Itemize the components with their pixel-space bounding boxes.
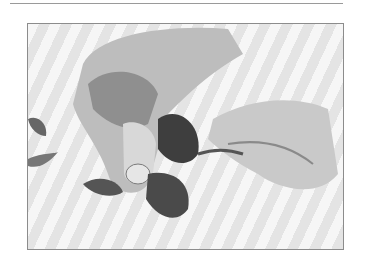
mint-hands-photo: [28, 24, 343, 249]
photo-frame: [27, 23, 344, 250]
top-divider-rule: [10, 3, 343, 4]
